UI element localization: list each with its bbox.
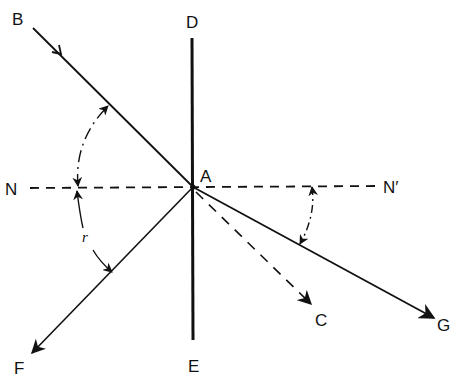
angle-i-arc-left	[78, 106, 108, 186]
angle-r-arc-lower	[93, 250, 112, 272]
label-g: G	[437, 316, 450, 335]
label-f: F	[14, 359, 24, 378]
label-b: B	[12, 10, 23, 29]
label-c: C	[315, 311, 327, 330]
label-n: N	[5, 180, 17, 199]
point-a-dot	[191, 185, 196, 190]
label-d: D	[186, 13, 198, 32]
label-a: A	[200, 167, 212, 186]
label-angle-r: r	[82, 229, 88, 245]
incident-arrow-icon	[52, 45, 61, 54]
incident-ray-ba	[33, 28, 193, 187]
label-n-prime: N′	[383, 178, 398, 197]
refracted-ray-ag	[193, 187, 434, 318]
ray-diagram: B D A N N′ E F C G r	[0, 0, 464, 381]
label-e: E	[188, 357, 199, 376]
angle-r-arc	[77, 191, 83, 228]
extension-ray-ac	[196, 192, 311, 304]
reflected-ray-af	[32, 187, 193, 353]
angle-i-arc-right	[300, 187, 313, 244]
normal-line	[30, 186, 378, 188]
